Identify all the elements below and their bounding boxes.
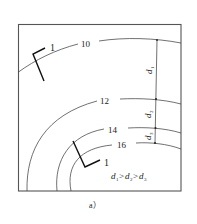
svg-text:1: 1 — [150, 66, 155, 69]
contour-line-16-right — [136, 143, 181, 149]
section-marker-top — [33, 48, 45, 81]
contour-line-16-left — [70, 145, 112, 191]
distance-label-d3: d 3 — [143, 132, 154, 140]
contour-line-14-left — [57, 129, 104, 191]
svg-text:2: 2 — [149, 110, 154, 113]
distance-label-d2: d 2 — [143, 110, 154, 118]
section-label-bottom: 1 — [104, 157, 109, 168]
svg-text:3: 3 — [149, 132, 154, 135]
contour-line-14-right — [128, 128, 181, 133]
svg-text:>: > — [133, 171, 138, 181]
contour-line-12-left — [27, 101, 97, 191]
distance-label-d1: d 1 — [144, 66, 155, 74]
section-marker-bottom — [73, 141, 100, 167]
tick-d2-bottom — [155, 127, 157, 129]
tick-d1-bottom — [155, 98, 157, 100]
contour-label-12: 12 — [100, 96, 109, 106]
contour-line-12-right — [120, 99, 181, 104]
svg-text:>: > — [119, 171, 124, 181]
tick-d1-top — [156, 39, 158, 41]
relation-text: d 1 > d 2 > d 3 — [111, 171, 147, 182]
contour-label-14: 14 — [108, 125, 118, 135]
contour-diagram: 1 1 10 12 14 16 d 1 d 2 d 3 d 1 > d 2 > … — [0, 0, 197, 224]
tick-d3-bottom — [154, 142, 156, 144]
section-label-top: 1 — [50, 42, 55, 53]
contour-label-10: 10 — [81, 39, 91, 49]
contour-line-10-left — [19, 44, 79, 72]
contour-line-10-right — [99, 39, 181, 43]
figure-caption: a） — [89, 201, 101, 210]
svg-text:3: 3 — [144, 177, 147, 182]
contour-label-16: 16 — [117, 140, 127, 150]
